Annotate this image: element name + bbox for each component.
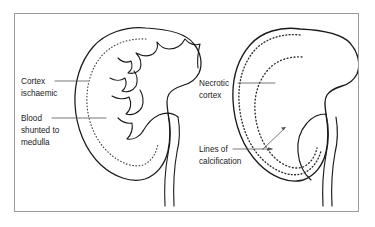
left-renal-pelvis bbox=[118, 39, 200, 73]
right-inner-calcification-dotted-line bbox=[255, 57, 317, 168]
left-renal-pelvis-funnel bbox=[143, 113, 178, 131]
left-ureter-lateral-wall bbox=[174, 117, 180, 206]
label-cortex-ischaemic: Cortex ischaemic bbox=[21, 77, 57, 98]
kidney-diagram-svg: Cortex ischaemic Blood shunted to medull… bbox=[0, 0, 375, 227]
label-blood-shunted-line2: shunted to bbox=[21, 126, 60, 135]
right-renal-pelvis-contour bbox=[298, 114, 326, 180]
left-calyx-group-lowest bbox=[112, 90, 143, 115]
left-kidney-figure bbox=[75, 28, 201, 206]
diagram-page: Cortex ischaemic Blood shunted to medull… bbox=[0, 0, 375, 227]
label-blood-shunted-line3: medulla bbox=[21, 138, 50, 147]
left-calyx-terminal bbox=[118, 118, 143, 139]
label-necrotic-cortex-line1: Necrotic bbox=[199, 79, 229, 88]
left-calyx-group-lower bbox=[110, 71, 137, 92]
leader-lines-of-calcification-branch-outer bbox=[263, 128, 285, 149]
leader-arrowheads bbox=[268, 127, 286, 151]
label-lines-of-calcification: Lines of calcification bbox=[199, 145, 242, 166]
right-kidney-outline bbox=[233, 28, 359, 181]
label-necrotic-cortex: Necrotic cortex bbox=[199, 79, 229, 100]
arrowhead-inner-calcification bbox=[268, 147, 273, 151]
left-kidney-outline bbox=[75, 28, 201, 181]
label-lines-of-calcification-line1: Lines of bbox=[199, 145, 228, 154]
label-lines-of-calcification-line2: calcification bbox=[199, 157, 242, 166]
label-blood-shunted-to-medulla: Blood shunted to medulla bbox=[21, 114, 60, 147]
right-kidney-figure bbox=[233, 28, 359, 206]
label-cortex-ischaemic-line2: ischaemic bbox=[21, 89, 57, 98]
label-necrotic-cortex-line2: cortex bbox=[199, 91, 221, 100]
arrowhead-outer-calcification bbox=[281, 127, 286, 130]
label-cortex-ischaemic-line1: Cortex bbox=[21, 77, 45, 86]
right-ureter-lateral-wall bbox=[332, 117, 338, 206]
label-blood-shunted-line1: Blood bbox=[21, 114, 42, 123]
left-corticomedullary-dotted-line bbox=[87, 39, 158, 166]
